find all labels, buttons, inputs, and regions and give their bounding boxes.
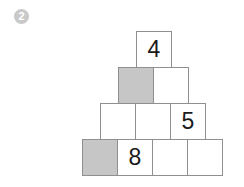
pyramid-row-2 bbox=[118, 67, 189, 104]
pyramid-brick[interactable] bbox=[187, 139, 223, 176]
pyramid-row-3: 5 bbox=[100, 103, 206, 140]
pyramid-brick[interactable] bbox=[82, 139, 118, 176]
pyramid-brick[interactable] bbox=[152, 139, 188, 176]
pyramid-row-4: 8 bbox=[82, 139, 223, 176]
pyramid-brick[interactable]: 8 bbox=[117, 139, 153, 176]
pyramid-row-1: 4 bbox=[136, 31, 172, 68]
pyramid-brick[interactable]: 5 bbox=[170, 103, 206, 140]
worksheet-page: 2 4 5 8 bbox=[0, 0, 244, 187]
pyramid-brick[interactable] bbox=[153, 67, 189, 104]
pyramid-brick[interactable] bbox=[135, 103, 171, 140]
pyramid-brick[interactable] bbox=[100, 103, 136, 140]
number-pyramid: 4 5 8 bbox=[0, 0, 244, 187]
pyramid-brick[interactable]: 4 bbox=[136, 31, 172, 68]
pyramid-brick[interactable] bbox=[118, 67, 154, 104]
